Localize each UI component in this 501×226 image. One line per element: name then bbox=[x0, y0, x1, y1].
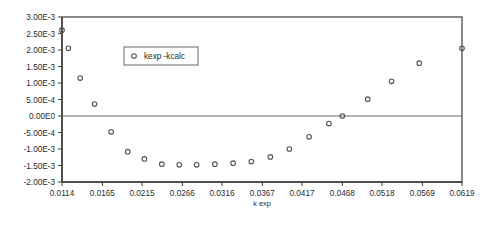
data-point bbox=[365, 97, 370, 102]
y-tick-label: 5.00E-4 bbox=[26, 96, 55, 105]
data-point bbox=[125, 149, 130, 154]
data-point bbox=[78, 76, 83, 81]
data-point bbox=[160, 162, 165, 167]
y-tick-label: 3.00E-3 bbox=[26, 13, 55, 22]
y-tick-label: 2.00E-3 bbox=[26, 46, 55, 55]
data-point bbox=[142, 157, 147, 162]
data-points bbox=[60, 28, 465, 167]
legend-label: kexp -kcalc bbox=[144, 52, 185, 61]
y-tick-label: -1.00E-3 bbox=[24, 145, 56, 154]
data-point bbox=[389, 79, 394, 84]
x-tick-label: 0.0316 bbox=[209, 189, 234, 198]
y-tick-label: 1.50E-3 bbox=[26, 63, 55, 72]
x-tick-label: 0.0114 bbox=[50, 189, 75, 198]
x-axis-ticks: 0.01140.01650.02150.02660.03160.03670.04… bbox=[50, 182, 475, 198]
chart-container: 3.00E-32.50E-32.00E-31.50E-31.00E-35.00E… bbox=[0, 0, 501, 226]
data-point bbox=[327, 121, 332, 126]
data-point bbox=[307, 134, 312, 139]
x-tick-label: 0.0569 bbox=[410, 189, 435, 198]
data-point bbox=[249, 159, 254, 164]
y-axis-ticks: 3.00E-32.50E-32.00E-31.50E-31.00E-35.00E… bbox=[24, 13, 62, 187]
data-point bbox=[66, 46, 71, 51]
data-point bbox=[417, 61, 422, 66]
y-tick-label: 2.50E-3 bbox=[26, 30, 55, 39]
plot-border bbox=[62, 17, 462, 182]
x-axis-title: k exp bbox=[253, 199, 271, 208]
y-tick-label: -5.00E-4 bbox=[24, 129, 56, 138]
x-tick-label: 0.0468 bbox=[330, 189, 355, 198]
scatter-chart: 3.00E-32.50E-32.00E-31.50E-31.00E-35.00E… bbox=[0, 0, 501, 226]
x-tick-label: 0.0165 bbox=[90, 189, 115, 198]
data-point bbox=[92, 102, 97, 107]
plot-frame bbox=[62, 17, 462, 182]
x-tick-label: 0.0367 bbox=[250, 189, 275, 198]
x-tick-label: 0.0619 bbox=[449, 189, 474, 198]
data-point bbox=[194, 163, 199, 168]
y-tick-label: 1.00E-3 bbox=[26, 79, 55, 88]
y-tick-label: -2.00E-3 bbox=[24, 178, 56, 187]
x-tick-label: 0.0215 bbox=[129, 189, 154, 198]
data-point bbox=[268, 155, 273, 160]
data-point bbox=[231, 161, 236, 166]
data-point bbox=[213, 162, 218, 167]
data-point bbox=[177, 163, 182, 168]
chart-legend: kexp -kcalc bbox=[124, 47, 198, 65]
x-tick-label: 0.0266 bbox=[170, 189, 195, 198]
x-tick-label: 0.0518 bbox=[369, 189, 394, 198]
data-point bbox=[287, 147, 292, 152]
x-tick-label: 0.0417 bbox=[289, 189, 314, 198]
y-tick-label: -1.50E-3 bbox=[24, 162, 56, 171]
y-tick-label: 0.00E0 bbox=[29, 112, 55, 121]
data-point bbox=[109, 130, 114, 135]
